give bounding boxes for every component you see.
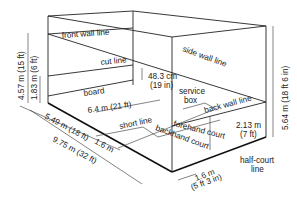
side-wall-height-label: 5.64 m (18 ft 6 in) xyxy=(281,66,290,130)
cut-line-height-label: 1.83 m (6 ft) xyxy=(30,56,39,100)
board-height-imperial-label: (19 in) xyxy=(150,81,173,90)
back-wall-height-imperial-label: (7 ft) xyxy=(240,130,257,139)
back-wall-height-label: 2.13 m xyxy=(236,121,261,130)
half-court-line-label-2: line xyxy=(251,165,264,174)
half-court-line-label: half-court xyxy=(240,156,275,165)
service-box-label: service xyxy=(179,87,205,96)
cut-line-label: cut line xyxy=(100,55,127,67)
front-wall-line-label: front wall line xyxy=(62,28,111,40)
front-to-short-line-label: 5.49 m (18 ft) xyxy=(43,112,90,143)
front-wall-height-label: 4.57 m (15 ft) xyxy=(17,51,26,100)
court-width-label: 6.4 m (21 ft) xyxy=(87,100,132,115)
board-label: board xyxy=(83,86,105,98)
board-height-label: 48.3 cm xyxy=(148,72,177,81)
squash-court-diagram: front wall line side wall line cut line … xyxy=(0,0,297,203)
service-box-label-2: box xyxy=(184,96,197,105)
side-wall-line-label: side wall line xyxy=(181,44,228,68)
